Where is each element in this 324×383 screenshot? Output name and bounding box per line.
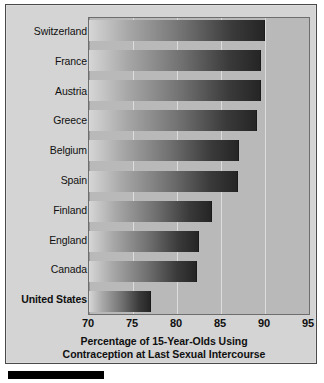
- tick-label-75: 75: [126, 317, 138, 329]
- bar-row: [89, 171, 309, 192]
- bar-row: [89, 140, 309, 161]
- bar-finland: [89, 201, 212, 222]
- gridline-95: [309, 18, 310, 314]
- category-label-switzerland: Switzerland: [6, 17, 87, 47]
- category-label-belgium: Belgium: [6, 136, 87, 166]
- bar-switzerland: [89, 20, 265, 41]
- figure-container: Switzerland France Austria Greece Belgiu…: [0, 0, 324, 383]
- category-label-england: England: [6, 226, 87, 256]
- bar-greece: [89, 110, 257, 131]
- source-rule: [8, 371, 104, 379]
- bar-austria: [89, 80, 261, 101]
- bar-france: [89, 50, 261, 71]
- axis-title-line-2: Contraception at Last Sexual Intercourse: [22, 348, 306, 361]
- tick-label-70: 70: [82, 317, 94, 329]
- bar-belgium: [89, 140, 239, 161]
- axis-title: Percentage of 15-Year-Olds Using Contrac…: [22, 335, 306, 360]
- category-label-canada: Canada: [6, 255, 87, 285]
- category-label-france: France: [6, 47, 87, 77]
- tick-label-85: 85: [214, 317, 226, 329]
- bar-row: [89, 50, 309, 71]
- category-label-united-states: United States: [6, 285, 87, 315]
- bar-row: [89, 201, 309, 222]
- bar-england: [89, 231, 199, 252]
- category-label-finland: Finland: [6, 196, 87, 226]
- bar-series: [89, 18, 309, 314]
- value-axis-ticks: 707580859095: [88, 317, 310, 331]
- tick-label-80: 80: [170, 317, 182, 329]
- axis-title-line-1: Percentage of 15-Year-Olds Using: [22, 335, 306, 348]
- tick-label-90: 90: [258, 317, 270, 329]
- bar-canada: [89, 261, 197, 282]
- bar-row: [89, 20, 309, 41]
- bar-row: [89, 231, 309, 252]
- category-label-austria: Austria: [6, 77, 87, 107]
- bar-row: [89, 291, 309, 312]
- chart-panel: Switzerland France Austria Greece Belgiu…: [5, 4, 317, 364]
- bar-united-states: [89, 291, 151, 312]
- bar-spain: [89, 171, 238, 192]
- tick-label-95: 95: [302, 317, 314, 329]
- category-axis-labels: Switzerland France Austria Greece Belgiu…: [6, 17, 87, 315]
- plot-area: [88, 17, 310, 315]
- category-label-spain: Spain: [6, 166, 87, 196]
- bar-row: [89, 110, 309, 131]
- bar-row: [89, 261, 309, 282]
- bar-row: [89, 80, 309, 101]
- category-label-greece: Greece: [6, 106, 87, 136]
